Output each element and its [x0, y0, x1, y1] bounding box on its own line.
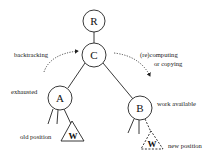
edge-b-child-3 [145, 119, 151, 132]
node-r: R [83, 10, 105, 32]
old-position-label: old position [20, 133, 52, 140]
node-a-label: A [56, 92, 64, 104]
work-available-label: work available [157, 100, 196, 107]
edge-c-a [68, 63, 85, 88]
edge-b-child-1 [128, 119, 134, 133]
edge-c-b [103, 63, 133, 99]
node-b-label: B [136, 102, 143, 114]
recompute-label-line2: or copying [154, 60, 183, 67]
edge-a-child-2 [57, 110, 58, 124]
node-r-label: R [90, 15, 98, 27]
node-c-label: C [90, 49, 97, 61]
node-b: B [128, 96, 152, 120]
backtracking-arrow [44, 51, 78, 72]
subtree-old: W [61, 121, 84, 141]
tree-diagram: R C A B W W backtracking (re)computing [0, 0, 214, 161]
edge-a-child-1 [48, 109, 53, 124]
node-a: A [48, 86, 72, 110]
backtracking-label: backtracking [14, 51, 49, 58]
diagram-canvas: R C A B W W backtracking (re)computing [0, 0, 214, 161]
recompute-label-line1: (re)computing [140, 51, 178, 59]
subtree-new-label: W [148, 139, 157, 149]
subtree-new: W [141, 131, 163, 149]
new-position-label: new position [168, 142, 203, 149]
exhausted-label: exhausted [11, 88, 38, 95]
node-c: C [82, 43, 106, 67]
subtree-old-label: W [69, 131, 78, 141]
